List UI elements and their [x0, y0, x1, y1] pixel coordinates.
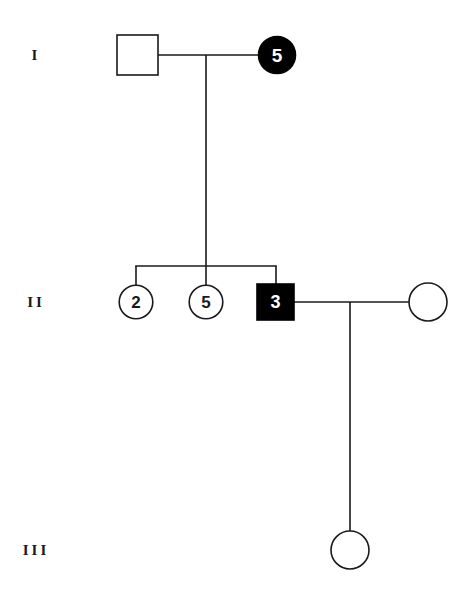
generation-labels: I II III	[23, 47, 50, 558]
individual-count-label: 3	[270, 292, 280, 312]
individual-ii-3[interactable]: 3	[257, 284, 294, 320]
circle-symbol-unaffected	[409, 283, 447, 321]
generation-label-3: III	[23, 542, 50, 558]
individual-i-2[interactable]: 5	[259, 37, 296, 74]
generation-label-1: I	[32, 47, 41, 63]
individual-i-1[interactable]	[117, 35, 158, 75]
individual-ii-4[interactable]	[409, 283, 447, 321]
square-symbol-unaffected	[117, 35, 158, 75]
individual-count-label: 5	[272, 45, 283, 66]
individual-ii-1[interactable]: 2	[119, 285, 153, 319]
circle-symbol-unaffected	[331, 531, 369, 569]
individual-count-label: 2	[131, 293, 140, 312]
individual-count-label: 5	[201, 293, 210, 312]
pedigree-diagram: 5 2 5 3 I II III	[0, 0, 460, 599]
individual-ii-2[interactable]: 5	[189, 285, 223, 319]
individual-iii-1[interactable]	[331, 531, 369, 569]
generation-label-2: II	[27, 294, 45, 310]
pedigree-chart: 5 2 5 3 I II III	[0, 0, 460, 599]
